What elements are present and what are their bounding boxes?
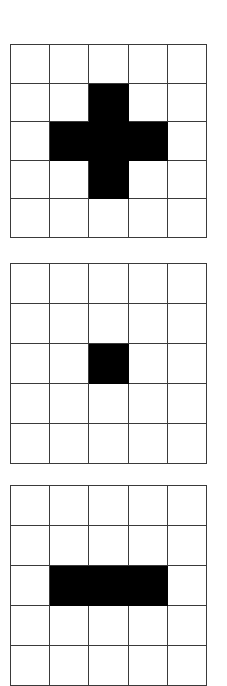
grid-cell-empty[interactable] <box>89 646 128 686</box>
grid-cell-empty[interactable] <box>167 486 206 526</box>
grid-cell-empty[interactable] <box>11 566 50 606</box>
grid-cell-empty[interactable] <box>167 566 206 606</box>
grid-cell-empty[interactable] <box>50 606 89 646</box>
grid-cell-empty[interactable] <box>167 526 206 566</box>
grid-row <box>11 264 207 304</box>
grid-cell-empty[interactable] <box>11 45 50 84</box>
grid-cell-empty[interactable] <box>11 526 50 566</box>
grid-row <box>11 160 207 199</box>
grid-row <box>11 606 207 646</box>
grid-table <box>10 263 207 464</box>
grid-cell-empty[interactable] <box>50 384 89 424</box>
grid-cell-empty[interactable] <box>128 646 167 686</box>
grid-cell-empty[interactable] <box>167 424 206 464</box>
grid-cell-empty[interactable] <box>50 83 89 122</box>
grid-cell-filled[interactable] <box>50 122 89 161</box>
grid-cell-empty[interactable] <box>89 304 128 344</box>
grid-cell-empty[interactable] <box>128 486 167 526</box>
grid-row <box>11 344 207 384</box>
grid-table <box>10 44 207 238</box>
grid-cell-empty[interactable] <box>167 606 206 646</box>
grid-cell-empty[interactable] <box>11 486 50 526</box>
grid-cell-empty[interactable] <box>11 122 50 161</box>
grid-cell-filled[interactable] <box>89 122 128 161</box>
grid-cell-filled[interactable] <box>128 122 167 161</box>
grid-cell-empty[interactable] <box>167 45 206 84</box>
grid-cell-filled[interactable] <box>89 566 128 606</box>
grid-row <box>11 83 207 122</box>
grid-cell-empty[interactable] <box>89 606 128 646</box>
grid-cell-empty[interactable] <box>89 486 128 526</box>
grid-cell-empty[interactable] <box>128 424 167 464</box>
grid-cell-empty[interactable] <box>128 45 167 84</box>
grid-cell-empty[interactable] <box>50 526 89 566</box>
grid-cell-empty[interactable] <box>167 199 206 238</box>
grid-cell-empty[interactable] <box>11 384 50 424</box>
grid-cell-empty[interactable] <box>89 264 128 304</box>
grid-body <box>11 264 207 464</box>
grid-cell-filled[interactable] <box>89 344 128 384</box>
grid-cell-empty[interactable] <box>50 486 89 526</box>
grid-cell-empty[interactable] <box>167 344 206 384</box>
grid-cell-empty[interactable] <box>11 264 50 304</box>
grid-cell-empty[interactable] <box>50 45 89 84</box>
grid-row <box>11 526 207 566</box>
grid-cell-empty[interactable] <box>11 83 50 122</box>
grid-cell-empty[interactable] <box>167 122 206 161</box>
grid-cell-filled[interactable] <box>89 160 128 199</box>
grid-cell-empty[interactable] <box>50 160 89 199</box>
grid-cell-empty[interactable] <box>128 264 167 304</box>
grid-cell-empty[interactable] <box>128 199 167 238</box>
grid-cell-empty[interactable] <box>50 199 89 238</box>
grid-cell-empty[interactable] <box>50 264 89 304</box>
grid-cell-empty[interactable] <box>11 199 50 238</box>
grid-cell-empty[interactable] <box>50 304 89 344</box>
grid-cell-empty[interactable] <box>50 646 89 686</box>
grid-cell-empty[interactable] <box>11 160 50 199</box>
grid-cell-empty[interactable] <box>89 424 128 464</box>
grid-cell-empty[interactable] <box>167 304 206 344</box>
grid-cell-empty[interactable] <box>89 526 128 566</box>
grid-cell-empty[interactable] <box>167 264 206 304</box>
grid-cell-empty[interactable] <box>167 646 206 686</box>
grid-table <box>10 485 207 686</box>
grid-cell-filled[interactable] <box>128 566 167 606</box>
grid-row <box>11 486 207 526</box>
grid-cell-filled[interactable] <box>50 566 89 606</box>
grid-cell-empty[interactable] <box>50 424 89 464</box>
grid-cell-empty[interactable] <box>167 160 206 199</box>
grid-panel-horizontal-bar <box>10 485 207 680</box>
grid-row <box>11 45 207 84</box>
grid-cell-empty[interactable] <box>89 384 128 424</box>
grid-cell-empty[interactable] <box>128 526 167 566</box>
grid-cell-empty[interactable] <box>167 384 206 424</box>
grid-row <box>11 646 207 686</box>
grid-cell-empty[interactable] <box>11 606 50 646</box>
grid-cell-empty[interactable] <box>128 160 167 199</box>
grid-cell-empty[interactable] <box>167 83 206 122</box>
grid-cell-empty[interactable] <box>128 384 167 424</box>
grid-row <box>11 304 207 344</box>
grid-row <box>11 384 207 424</box>
grid-cell-empty[interactable] <box>89 45 128 84</box>
grid-row <box>11 199 207 238</box>
grid-cell-empty[interactable] <box>11 646 50 686</box>
grid-cell-empty[interactable] <box>128 606 167 646</box>
grid-body <box>11 486 207 686</box>
grid-cell-empty[interactable] <box>128 344 167 384</box>
grid-panel-single-center <box>10 263 207 458</box>
grid-cell-empty[interactable] <box>11 344 50 384</box>
grid-row <box>11 566 207 606</box>
grid-cell-filled[interactable] <box>89 83 128 122</box>
grid-body <box>11 45 207 238</box>
grid-panel-cross <box>10 44 207 232</box>
grid-cell-empty[interactable] <box>128 83 167 122</box>
grid-row <box>11 122 207 161</box>
grid-cell-empty[interactable] <box>11 424 50 464</box>
grid-row <box>11 424 207 464</box>
grid-cell-empty[interactable] <box>128 304 167 344</box>
grid-cell-empty[interactable] <box>11 304 50 344</box>
grid-cell-empty[interactable] <box>50 344 89 384</box>
grid-cell-empty[interactable] <box>89 199 128 238</box>
